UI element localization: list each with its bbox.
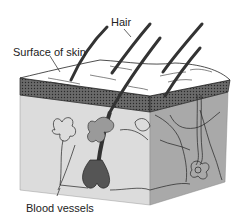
blood-vessels-label: Blood vessels	[26, 202, 94, 214]
surface-of-skin-label: Surface of skin	[13, 46, 86, 58]
hair-label: Hair	[111, 16, 131, 28]
skin-diagram	[0, 0, 245, 224]
hair-leader	[124, 29, 131, 37]
